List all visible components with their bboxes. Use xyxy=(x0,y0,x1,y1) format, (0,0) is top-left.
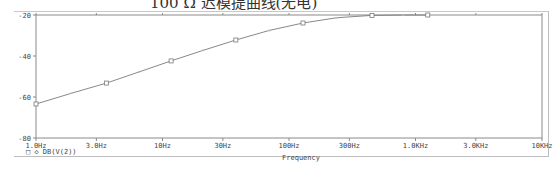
x-tick-label: 30Hz xyxy=(214,142,231,150)
plot-frame xyxy=(36,15,542,138)
x-tick-label: 3.0KHz xyxy=(463,142,488,150)
minor-marker xyxy=(138,71,140,73)
minor-marker xyxy=(202,49,204,51)
x-tick-label: 3.0Hz xyxy=(86,142,107,150)
square-marker xyxy=(426,13,430,17)
minor-marker xyxy=(336,17,338,19)
x-tick-label: 100Hz xyxy=(278,142,299,150)
square-marker xyxy=(104,81,108,85)
x-tick-label: 10KHz xyxy=(531,142,552,150)
x-tick-label: 10Hz xyxy=(154,142,171,150)
legend-entry: □ ◇ DB(V(2)) xyxy=(26,148,77,156)
y-tick-label: -20 xyxy=(18,12,31,20)
minor-marker xyxy=(402,14,404,16)
x-tick-label: 1.0KHz xyxy=(403,142,428,150)
y-tick-label: -60 xyxy=(18,94,31,102)
minor-marker xyxy=(268,29,270,31)
x-axis-title: Frequency xyxy=(282,154,320,162)
square-marker xyxy=(301,21,305,25)
x-tick-label: 300Hz xyxy=(339,142,360,150)
series-line xyxy=(36,15,428,104)
minor-marker xyxy=(70,92,72,94)
y-tick-label: -40 xyxy=(18,53,31,61)
square-marker xyxy=(169,59,173,63)
bode-plot: -20-40-60-801.0Hz3.0Hz10Hz30Hz100Hz300Hz… xyxy=(0,0,553,173)
square-marker xyxy=(234,38,238,42)
square-marker xyxy=(34,102,38,106)
square-marker xyxy=(370,13,374,17)
